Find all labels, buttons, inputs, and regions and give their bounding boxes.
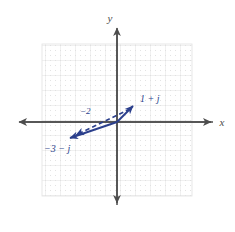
y-axis-label: y [107,12,113,24]
coordinate-plane-svg: y x 1 + j −3 − j −2 [0,0,235,232]
x-axis-label: x [219,116,225,128]
label-minus-2: −2 [80,106,91,116]
complex-plane-figure: y x 1 + j −3 − j −2 [0,0,235,232]
label-1-plus-j: 1 + j [140,93,160,104]
label-minus-3-minus-j: −3 − j [44,143,70,154]
